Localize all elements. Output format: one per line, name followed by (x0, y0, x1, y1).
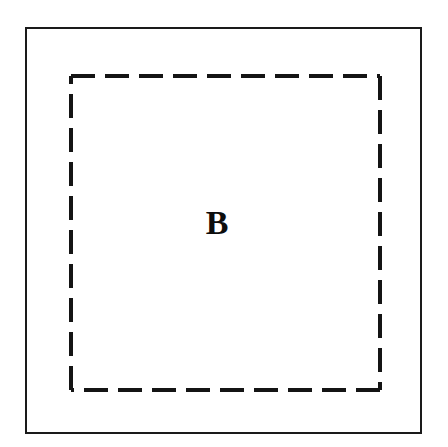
inner-dashed-rectangle (71, 76, 376, 386)
figure-canvas: B (0, 0, 448, 447)
